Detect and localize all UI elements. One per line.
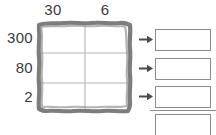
partial-product-box-1[interactable] (155, 58, 211, 80)
sum-rule-divider (150, 110, 216, 111)
total-sum-box[interactable] (155, 114, 211, 135)
right-arrow-icon (139, 92, 153, 101)
row-header-label-2: 2 (0, 89, 33, 105)
partial-product-box-2[interactable] (155, 86, 211, 108)
partial-product-box-0[interactable] (155, 29, 211, 51)
row-header-label-0: 300 (0, 30, 33, 46)
area-model-grid (33, 16, 135, 116)
right-arrow-icon (139, 64, 153, 73)
hand-drawn-square-border-texture (41, 26, 127, 108)
grid-divider-lines (40, 22, 130, 111)
right-arrow-icon (139, 35, 153, 44)
row-header-label-1: 80 (0, 60, 33, 76)
area-model-worksheet: 30 6 300 80 2 (0, 0, 216, 135)
